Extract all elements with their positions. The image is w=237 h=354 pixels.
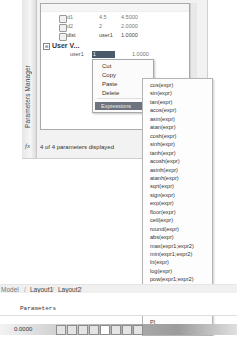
command-line-text: Parameters bbox=[20, 305, 56, 312]
snap-button[interactable] bbox=[56, 325, 66, 335]
expression-menu-item[interactable]: abs(expr) bbox=[150, 234, 174, 240]
fx-icon[interactable]: fx bbox=[25, 142, 30, 150]
dimension-parameter-icon bbox=[59, 24, 67, 32]
expression-menu-item[interactable]: tanh(expr) bbox=[150, 150, 176, 156]
palette-title-bar[interactable]: Parameters Manager fx bbox=[22, 0, 37, 158]
expression-menu-item[interactable]: floor(expr) bbox=[150, 209, 176, 215]
table-row-selected[interactable]: user1 1 1.0000 bbox=[41, 51, 189, 59]
grid-button[interactable] bbox=[67, 325, 77, 335]
param-expression: user1 bbox=[99, 32, 113, 38]
menu-item-delete[interactable]: Delete bbox=[102, 90, 119, 96]
dimension-parameter-icon bbox=[59, 33, 67, 41]
background bbox=[0, 336, 237, 354]
expression-menu-item[interactable]: cos(expr) bbox=[150, 82, 173, 88]
ducs-button[interactable] bbox=[122, 325, 132, 335]
expression-menu-item[interactable]: cosh(expr) bbox=[150, 133, 176, 139]
param-value: 2.0000 bbox=[121, 23, 138, 29]
param-expression: 4.5 bbox=[99, 14, 107, 20]
group-label: User V... bbox=[52, 42, 79, 49]
expression-menu-item[interactable]: sign(expr) bbox=[150, 192, 175, 198]
command-line[interactable]: Parameters bbox=[0, 293, 237, 316]
param-name: user1 bbox=[70, 51, 84, 57]
coordinates-readout: 0.0000 bbox=[14, 326, 32, 332]
otrack-button[interactable] bbox=[111, 325, 121, 335]
tab-separator: / bbox=[24, 286, 26, 293]
osnap-button[interactable] bbox=[100, 325, 110, 335]
expression-menu-item[interactable]: asin(expr) bbox=[150, 116, 175, 122]
expression-menu-item[interactable]: min(expr1;expr2) bbox=[150, 251, 192, 257]
param-name: dist bbox=[67, 32, 76, 38]
list-header bbox=[41, 4, 189, 12]
expression-menu-item[interactable]: sinh(expr) bbox=[150, 141, 175, 147]
expression-menu-item[interactable]: pow(expr1;expr2) bbox=[150, 276, 194, 282]
expression-menu-item[interactable]: atanh(expr) bbox=[150, 175, 179, 181]
expression-menu-item[interactable]: tan(expr) bbox=[150, 99, 172, 105]
expression-menu-item[interactable]: acosh(expr) bbox=[150, 158, 180, 164]
menu-item-paste[interactable]: Paste bbox=[102, 81, 117, 87]
menu-item-cut[interactable]: Cut bbox=[102, 63, 111, 69]
param-name: d1 bbox=[67, 14, 73, 20]
param-name: d2 bbox=[67, 23, 73, 29]
tab-separator: / bbox=[52, 286, 54, 293]
user-variables-group[interactable]: ⊟User V... bbox=[43, 42, 79, 50]
param-value: 1.0000 bbox=[132, 51, 149, 57]
param-value: 1.0000 bbox=[121, 32, 138, 38]
table-row[interactable]: dist user1 1.0000 bbox=[41, 32, 189, 40]
table-row[interactable]: d2 2 2.0000 bbox=[41, 23, 189, 31]
expression-menu-item[interactable]: round(expr) bbox=[150, 226, 179, 232]
expression-menu-item[interactable]: max(expr1;expr2) bbox=[150, 243, 194, 249]
parameters-count-status: 4 of 4 parameters displayed bbox=[40, 144, 114, 150]
polar-button[interactable] bbox=[89, 325, 99, 335]
table-row[interactable]: d1 4.5 4.5000 bbox=[41, 14, 189, 22]
menu-item-label: Expressions bbox=[101, 102, 131, 110]
dyn-button[interactable] bbox=[133, 325, 143, 335]
expression-menu-item[interactable]: acos(expr) bbox=[150, 107, 176, 113]
expression-menu-item[interactable]: asinh(expr) bbox=[150, 167, 178, 173]
dimension-parameter-icon bbox=[59, 15, 67, 23]
tab-layout2[interactable]: Layout2 bbox=[58, 286, 81, 293]
expression-menu-item[interactable]: ln(expr) bbox=[150, 259, 169, 265]
ortho-button[interactable] bbox=[78, 325, 88, 335]
expression-menu-item[interactable]: ceil(expr) bbox=[150, 217, 173, 223]
tab-layout1[interactable]: Layout1 bbox=[30, 286, 53, 293]
expression-menu-item[interactable]: atan(expr) bbox=[150, 124, 176, 130]
expression-menu-item[interactable]: sin(expr) bbox=[150, 90, 172, 96]
tab-model[interactable]: Model bbox=[1, 286, 19, 293]
expression-edit-field[interactable]: 1 bbox=[92, 51, 115, 58]
expression-menu-item[interactable]: log(expr) bbox=[150, 268, 172, 274]
menu-item-copy[interactable]: Copy bbox=[102, 72, 116, 78]
status-bar: 0.0000 bbox=[0, 324, 237, 335]
tab-separator: / bbox=[80, 286, 82, 293]
expression-menu-item[interactable]: exp(expr) bbox=[150, 200, 174, 206]
param-expression: 2 bbox=[99, 23, 102, 29]
palette-title: Parameters Manager bbox=[24, 62, 36, 132]
expression-menu-item[interactable]: sqrt(expr) bbox=[150, 183, 174, 189]
param-value: 4.5000 bbox=[121, 14, 138, 20]
collapse-icon[interactable]: ⊟ bbox=[43, 43, 50, 50]
